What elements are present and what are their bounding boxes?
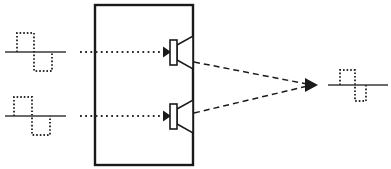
upper-loudspeaker-body-icon — [170, 40, 177, 65]
acoustic-signal-flow-diagram — [0, 0, 391, 169]
lower-input-arrow — [80, 111, 171, 122]
diagram-canvas — [0, 0, 391, 169]
upper-input-arrow — [80, 47, 171, 58]
lower-radiation-ray — [194, 85, 312, 113]
output-waveform — [328, 70, 388, 101]
lower-loudspeaker-body-icon — [170, 104, 177, 129]
lower-loudspeaker — [170, 100, 193, 133]
lower-loudspeaker-horn-icon — [177, 100, 193, 133]
upper-input-waveform — [5, 33, 66, 71]
enclosure-cabinet — [95, 5, 193, 165]
upper-radiation-ray — [194, 62, 312, 85]
lower-input-waveform — [5, 97, 66, 135]
convergence-arrowhead-icon — [305, 78, 318, 92]
upper-loudspeaker-horn-icon — [177, 36, 193, 69]
upper-loudspeaker — [170, 36, 193, 69]
